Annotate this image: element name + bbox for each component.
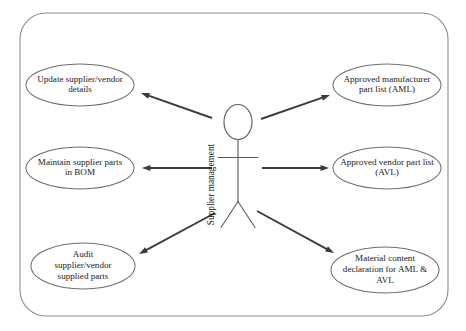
use-case-label-line: in BOM xyxy=(65,167,95,177)
use-case-label-line: supplied parts xyxy=(58,271,109,281)
association-line xyxy=(145,213,215,251)
use-case-label-line: Material content xyxy=(355,253,415,263)
association-arrowhead-icon xyxy=(321,95,330,101)
assoc-actor-to-maintain-supplier-parts-in-bom xyxy=(142,165,212,171)
assoc-actor-to-update-supplier-vendor-details xyxy=(141,93,212,118)
use-case-label-line: declaration for AML & xyxy=(343,264,427,274)
association-line xyxy=(147,95,212,118)
actor-left-leg-line xyxy=(221,202,238,228)
assoc-actor-to-approved-manufacturer-part-list-aml xyxy=(261,95,330,119)
use-case-diagram: Update supplier/vendordetailsMaintain su… xyxy=(0,0,466,331)
use-case-material-content-declaration-for-aml-avl[interactable]: Material contentdeclaration for AML &AVL xyxy=(331,247,439,293)
association-arrowhead-icon xyxy=(141,93,150,99)
actor-head-icon xyxy=(224,105,252,140)
association-arrowhead-icon xyxy=(325,246,334,253)
use-case-label-line: part list (AML) xyxy=(359,84,415,94)
assoc-actor-to-approved-vendor-part-list-avl xyxy=(262,165,329,171)
association-arrowhead-icon xyxy=(142,165,151,171)
use-case-label-line: Update supplier/vendor xyxy=(37,74,123,84)
use-case-audit-supplier-vendor-supplied-parts[interactable]: Auditsupplier/vendorsupplied parts xyxy=(31,243,135,289)
use-case-approved-manufacturer-part-list-aml[interactable]: Approved manufacturerpart list (AML) xyxy=(333,64,441,106)
use-case-label-line: Maintain supplier parts xyxy=(38,157,123,167)
supplier-management-actor[interactable]: Supplier management xyxy=(206,105,258,228)
use-case-approved-vendor-part-list-avl[interactable]: Approved vendor part list(AVL) xyxy=(333,147,441,189)
association-line xyxy=(261,97,324,119)
association-arrowhead-icon xyxy=(139,247,148,254)
use-case-label-line: details xyxy=(68,84,92,94)
use-case-nodes: Update supplier/vendordetailsMaintain su… xyxy=(26,64,441,293)
use-case-maintain-supplier-parts-in-bom[interactable]: Maintain supplier partsin BOM xyxy=(26,147,134,189)
use-case-label-line: Approved vendor part list xyxy=(340,157,434,167)
use-case-label-line: supplier/vendor xyxy=(54,260,111,270)
association-line xyxy=(257,211,328,250)
diagram-canvas: Update supplier/vendordetailsMaintain su… xyxy=(0,0,466,331)
use-case-update-supplier-vendor-details[interactable]: Update supplier/vendordetails xyxy=(26,64,134,106)
association-arrowhead-icon xyxy=(321,165,330,171)
use-case-label-line: (AVL) xyxy=(375,167,399,177)
use-case-label-line: Audit xyxy=(73,249,94,259)
assoc-actor-to-material-content-declaration xyxy=(257,211,334,253)
actor-right-leg-line xyxy=(238,202,255,228)
assoc-actor-to-audit-supplier-vendor-supplied-parts xyxy=(139,213,215,254)
use-case-label-line: AVL xyxy=(376,275,394,285)
use-case-label-line: Approved manufacturer xyxy=(343,74,430,84)
actor-label: Supplier management xyxy=(206,143,216,225)
